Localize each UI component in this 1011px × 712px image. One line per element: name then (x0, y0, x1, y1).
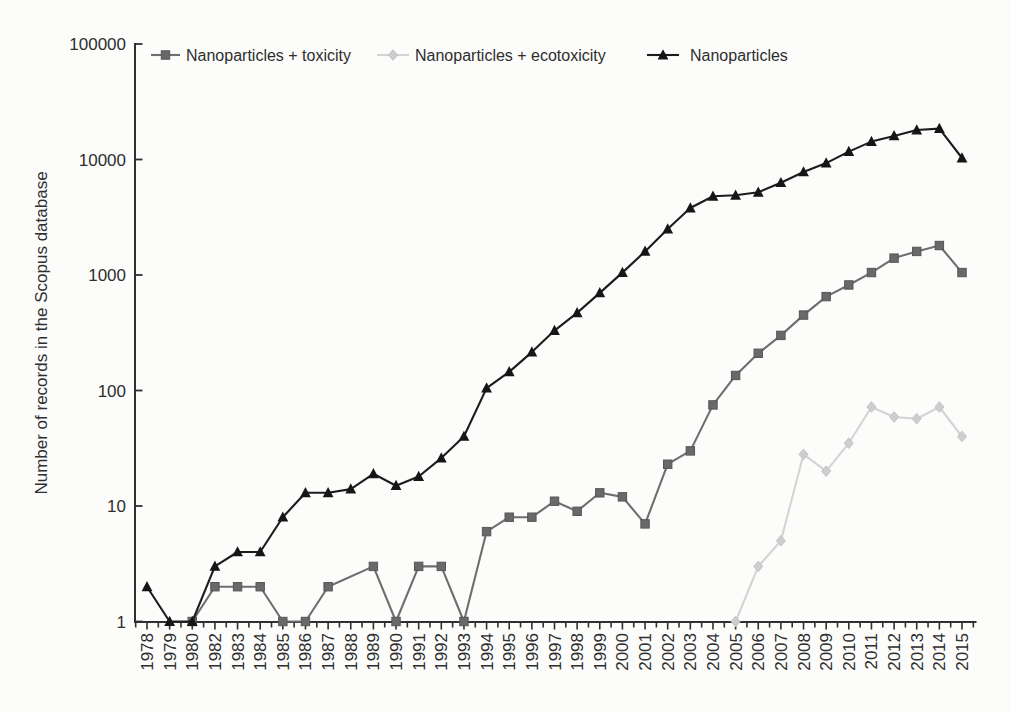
square-marker (369, 562, 377, 570)
diamond-marker (890, 412, 899, 423)
square-marker (890, 254, 898, 262)
series-nanoparticles-toxicity (188, 241, 966, 625)
x-tick-label: 2001 (636, 633, 655, 671)
x-tick-label: 2005 (727, 633, 746, 671)
x-tick-label: 1999 (591, 633, 610, 671)
square-marker (641, 520, 649, 528)
square-marker (324, 583, 332, 591)
x-tick-label: 1979 (161, 633, 180, 671)
square-marker (414, 562, 422, 570)
x-tick-labels: 1978197919801982198319841985198619871988… (138, 633, 972, 671)
x-tick-label: 1990 (387, 633, 406, 671)
y-tick-label: 100000 (69, 35, 126, 54)
triangle-marker (481, 382, 492, 392)
series-nanoparticles (142, 123, 968, 626)
square-marker (528, 513, 536, 521)
x-tick-label: 2007 (772, 633, 791, 671)
x-tick-label: 2006 (749, 633, 768, 671)
legend-label: Nanoparticles + ecotoxicity (415, 47, 606, 64)
triangle-marker (345, 483, 356, 493)
square-marker (618, 493, 626, 501)
x-tick-label: 2003 (681, 633, 700, 671)
square-marker (550, 497, 558, 505)
square-marker (709, 401, 717, 409)
x-tick-label: 2013 (908, 633, 927, 671)
square-marker (279, 617, 287, 625)
x-tick-label: 2008 (795, 633, 814, 671)
chart-canvas: 1101001000100001000001978197919801982198… (0, 0, 1011, 712)
x-tick-label: 1988 (342, 633, 361, 671)
square-marker (573, 507, 581, 515)
x-tick-label: 1997 (546, 633, 565, 671)
square-marker (460, 617, 468, 625)
square-marker (731, 371, 739, 379)
x-tick-label: 1978 (138, 633, 157, 671)
y-tick-label: 1 (117, 613, 126, 632)
square-marker (867, 268, 875, 276)
square-legend-marker-icon (161, 51, 169, 59)
square-marker (256, 583, 264, 591)
x-tick-label: 1992 (432, 633, 451, 671)
y-tick-labels: 110100100010000100000 (69, 35, 126, 632)
square-marker (596, 489, 604, 497)
square-marker (301, 617, 309, 625)
x-tick-label: 1989 (364, 633, 383, 671)
x-tick-label: 1982 (206, 633, 225, 671)
y-tick-label: 100 (98, 382, 126, 401)
triangle-marker (459, 431, 470, 441)
x-tick-label: 2004 (704, 633, 723, 671)
y-ticks (135, 44, 143, 622)
x-tick-label: 2002 (659, 633, 678, 671)
triangle-marker (142, 581, 153, 591)
square-marker (505, 513, 513, 521)
triangle-marker (368, 468, 379, 478)
series-line (192, 246, 962, 622)
square-marker (392, 617, 400, 625)
diamond-marker (799, 449, 808, 460)
x-tick-label: 1986 (296, 633, 315, 671)
legend-item-nanoparticles: Nanoparticles (647, 47, 788, 64)
square-marker (799, 311, 807, 319)
x-tick-label: 2014 (930, 633, 949, 671)
x-tick-label: 1994 (478, 633, 497, 671)
square-marker (913, 247, 921, 255)
legend-item-nanoparticles-toxicity: Nanoparticles + toxicity (151, 47, 351, 64)
x-tick-label: 2015 (953, 633, 972, 671)
triangle-marker (685, 202, 696, 212)
x-tick-label: 2000 (613, 633, 632, 671)
triangle-marker (210, 561, 221, 571)
square-marker (822, 292, 830, 300)
square-marker (211, 583, 219, 591)
legend: Nanoparticles + toxicityNanoparticles + … (151, 47, 788, 64)
x-tick-label: 2009 (817, 633, 836, 671)
square-marker (935, 241, 943, 249)
square-marker (777, 331, 785, 339)
x-tick-label: 1983 (229, 633, 248, 671)
square-marker (437, 562, 445, 570)
x-tick-label: 1987 (319, 633, 338, 671)
y-axis-title: Number of records in the Scopus database (32, 171, 51, 494)
diamond-marker (731, 616, 740, 627)
diamond-marker (912, 413, 921, 424)
x-tick-label: 2012 (885, 633, 904, 671)
y-tick-label: 10000 (79, 151, 126, 170)
x-tick-label: 1995 (500, 633, 519, 671)
series-line (147, 129, 962, 622)
square-marker (686, 447, 694, 455)
x-tick-label: 1998 (568, 633, 587, 671)
x-tick-label: 1996 (523, 633, 542, 671)
x-tick-label: 1980 (183, 633, 202, 671)
series-nanoparticles-ecotoxicity (731, 402, 966, 627)
square-marker (958, 268, 966, 276)
x-tick-label: 1991 (410, 633, 429, 671)
y-tick-label: 10 (107, 497, 126, 516)
x-tick-label: 1993 (455, 633, 474, 671)
square-marker (845, 281, 853, 289)
x-tick-label: 1984 (251, 633, 270, 671)
square-marker (663, 460, 671, 468)
x-tick-label: 2011 (862, 633, 881, 670)
scopus-records-figure: 1101001000100001000001978197919801982198… (0, 0, 1011, 712)
y-tick-label: 1000 (88, 266, 126, 285)
x-tick-label: 2010 (840, 633, 859, 671)
x-tick-label: 1985 (274, 633, 293, 671)
